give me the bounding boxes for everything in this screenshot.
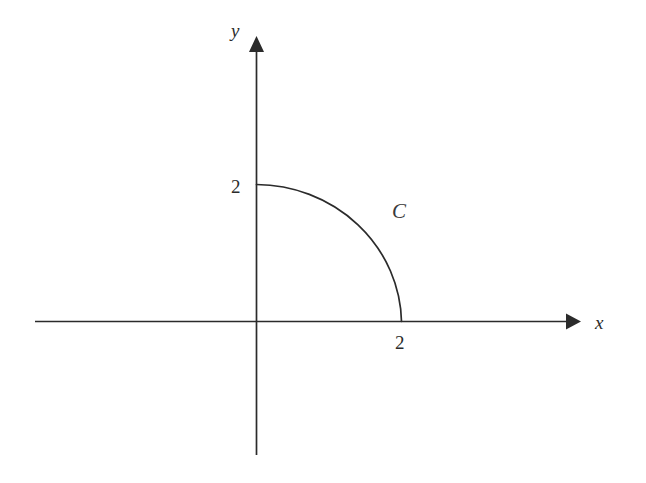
x-axis xyxy=(35,314,581,330)
x-axis-arrowhead-icon xyxy=(566,314,581,330)
y-axis-label: y xyxy=(229,20,240,41)
contour-label-c: C xyxy=(392,199,407,223)
x-axis-label: x xyxy=(594,312,604,333)
ghost-text-line-4 xyxy=(30,127,152,143)
x-axis-tick-label-2: 2 xyxy=(395,332,405,353)
quarter-circle-contour xyxy=(257,185,402,322)
y-axis-arrowhead-icon xyxy=(249,36,264,52)
ghost-bleed-through-layer xyxy=(30,27,440,178)
y-axis xyxy=(249,36,264,455)
figure-canvas: y x C 2 2 xyxy=(0,0,646,483)
ghost-text-line-1 xyxy=(318,27,440,43)
ghost-text-line-2 xyxy=(86,65,208,81)
ghost-text-line-5 xyxy=(300,162,422,178)
coordinate-diagram: y x C 2 2 xyxy=(0,0,646,483)
y-axis-tick-label-2: 2 xyxy=(231,176,241,197)
ghost-text-line-3 xyxy=(300,97,422,113)
